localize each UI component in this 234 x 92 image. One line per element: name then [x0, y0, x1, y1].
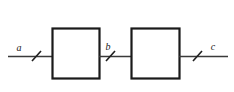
wire-a-group: a [8, 42, 53, 61]
wire-b-label: b [106, 41, 111, 52]
wire-a-label: a [17, 42, 22, 53]
diagram-svg: a b c [0, 0, 234, 92]
block-1[interactable] [53, 29, 100, 79]
wire-c-group: c [179, 41, 228, 61]
wire-b-group: b [99, 41, 132, 61]
block-2[interactable] [132, 29, 180, 79]
wire-c-label: c [211, 41, 216, 52]
block-diagram-canvas: a b c [0, 0, 234, 92]
